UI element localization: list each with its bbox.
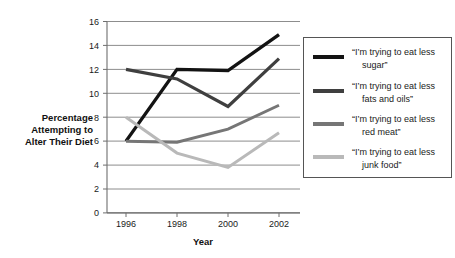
ytick-label-12: 12 — [89, 65, 99, 75]
line-chart: 16 14 12 10 8 6 4 2 0 1996 1998 2000 200… — [0, 0, 455, 258]
legend-label-red-meat-line-2: red meat” — [362, 127, 401, 137]
xtick-label-1996: 1996 — [116, 219, 136, 229]
y-axis-title: Percentage Attempting to Alter Their Die… — [25, 112, 94, 147]
x-axis-title: Year — [193, 236, 213, 247]
y-tick-marks — [103, 22, 107, 213]
ytick-label-10: 10 — [89, 89, 99, 99]
x-tick-labels: 1996 1998 2000 2002 — [116, 219, 289, 229]
ytick-label-14: 14 — [89, 41, 99, 51]
ytick-label-16: 16 — [89, 17, 99, 27]
ytick-label-4: 4 — [94, 160, 99, 170]
y-axis-title-line-2: Attempting to — [31, 124, 93, 135]
legend-label-fats-line-2: fats and oils” — [362, 94, 413, 104]
legend-label-sugar-line-1: “I’m trying to eat less — [352, 47, 436, 57]
legend-label-red-meat-line-1: “I’m trying to eat less — [352, 114, 436, 124]
legend-label-fats-line-1: “I’m trying to eat less — [352, 81, 436, 91]
xtick-label-2000: 2000 — [218, 219, 238, 229]
xtick-label-2002: 2002 — [269, 219, 289, 229]
ytick-label-2: 2 — [94, 184, 99, 194]
legend[interactable]: “I’m trying to eat less sugar” “I’m tryi… — [304, 38, 452, 178]
legend-label-sugar-line-2: sugar” — [362, 60, 388, 70]
series-line-sugar — [126, 35, 279, 141]
chart-canvas: 16 14 12 10 8 6 4 2 0 1996 1998 2000 200… — [0, 0, 455, 258]
ytick-label-6: 6 — [94, 136, 99, 146]
legend-label-junk-food-line-1: “I’m trying to eat less — [352, 147, 436, 157]
xtick-label-1998: 1998 — [167, 219, 187, 229]
x-tick-marks — [126, 213, 279, 217]
legend-label-junk-food-line-2: junk food” — [361, 160, 402, 170]
ytick-label-8: 8 — [94, 113, 99, 123]
gridlines — [107, 22, 300, 213]
ytick-label-0: 0 — [94, 208, 99, 218]
y-axis-title-line-1: Percentage — [42, 112, 93, 123]
series-line-fats-and-oils — [126, 59, 279, 107]
y-axis-title-line-3: Alter Their Diet — [25, 136, 94, 147]
series-lines — [126, 35, 279, 168]
